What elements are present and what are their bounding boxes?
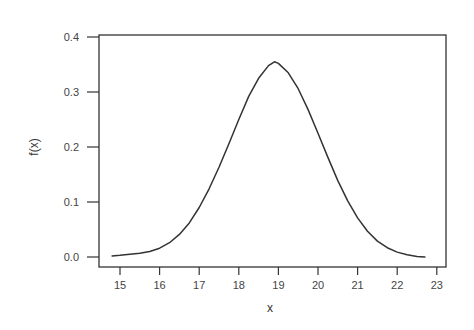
density-line: [112, 62, 425, 257]
x-tick-label: 23: [431, 279, 443, 291]
x-tick-label: 16: [153, 279, 165, 291]
density-curve: [112, 62, 425, 257]
y-tick-label: 0.1: [64, 196, 79, 208]
x-tick-label: 19: [272, 279, 284, 291]
x-tick-label: 18: [233, 279, 245, 291]
y-tick-label: 0.4: [64, 31, 79, 43]
x-tick-label: 15: [114, 279, 126, 291]
y-axis-title: f(x): [27, 138, 41, 155]
x-tick-label: 21: [351, 279, 363, 291]
y-tick-label: 0.3: [64, 86, 79, 98]
plot-border: [99, 35, 446, 267]
y-axis: 0.00.10.20.30.4: [64, 31, 99, 263]
plot-frame: [99, 35, 446, 267]
normal-density-chart: 151617181920212223 0.00.10.20.30.4 x f(x…: [0, 0, 474, 330]
x-axis-title: x: [267, 301, 273, 315]
y-tick-label: 0.0: [64, 251, 79, 263]
x-tick-label: 22: [391, 279, 403, 291]
x-axis: 151617181920212223: [114, 267, 443, 291]
y-tick-label: 0.2: [64, 141, 79, 153]
x-tick-label: 20: [312, 279, 324, 291]
x-tick-label: 17: [193, 279, 205, 291]
